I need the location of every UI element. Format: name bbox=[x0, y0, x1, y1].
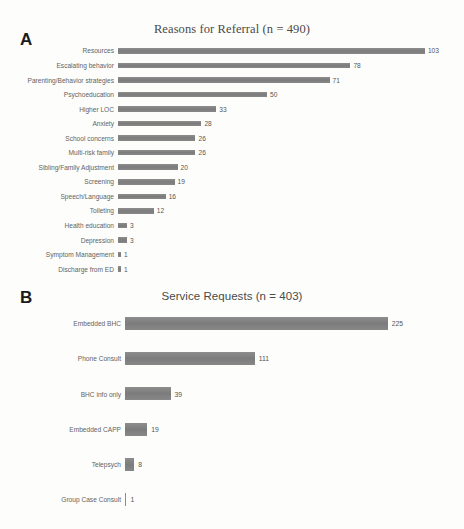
value-label: 71 bbox=[333, 76, 340, 85]
value-label: 33 bbox=[219, 105, 226, 114]
bar bbox=[118, 208, 154, 214]
panel-b: B Service Requests (n = 403) Embedded BH… bbox=[0, 285, 464, 529]
bar bbox=[118, 194, 166, 200]
category-label: Symptom Management bbox=[46, 250, 114, 259]
category-label: Phone Consult bbox=[78, 354, 121, 363]
category-label: Embedded CAPP bbox=[69, 425, 121, 434]
bar bbox=[118, 106, 216, 112]
bar bbox=[118, 252, 121, 258]
bar bbox=[125, 387, 171, 400]
category-label: Speech/Language bbox=[60, 192, 114, 201]
value-label: 3 bbox=[130, 221, 134, 230]
category-label: Psychoeducation bbox=[64, 90, 114, 99]
bar bbox=[125, 423, 147, 436]
category-label: Screening bbox=[84, 177, 114, 186]
bar bbox=[125, 458, 134, 471]
category-label: Resources bbox=[82, 46, 114, 55]
bar bbox=[118, 48, 425, 54]
bar bbox=[118, 266, 121, 272]
value-label: 50 bbox=[270, 90, 277, 99]
category-label: Discharge from ED bbox=[58, 265, 114, 274]
panel-a-title: Reasons for Referral (n = 490) bbox=[0, 22, 464, 37]
value-label: 28 bbox=[204, 119, 211, 128]
category-label: Health education bbox=[65, 221, 115, 230]
category-label: Toileting bbox=[90, 206, 114, 215]
category-label: Anxiety bbox=[92, 119, 114, 128]
category-label: Group Case Consult bbox=[61, 495, 121, 504]
value-label: 3 bbox=[130, 236, 134, 245]
value-label: 39 bbox=[175, 390, 183, 399]
bar bbox=[118, 121, 201, 127]
category-label: Sibling/Family Adjustment bbox=[39, 163, 115, 172]
figure-root: A Reasons for Referral (n = 490) Resourc… bbox=[0, 0, 464, 529]
value-label: 78 bbox=[353, 61, 360, 70]
category-label: School concerns bbox=[65, 134, 114, 143]
bar bbox=[125, 352, 255, 365]
value-label: 103 bbox=[428, 46, 439, 55]
value-label: 20 bbox=[181, 163, 188, 172]
value-label: 1 bbox=[124, 265, 128, 274]
category-label: Depression bbox=[81, 236, 114, 245]
category-label: Telepsych bbox=[92, 460, 121, 469]
value-label: 8 bbox=[138, 460, 142, 469]
bar bbox=[125, 317, 388, 330]
value-label: 16 bbox=[169, 192, 176, 201]
bar bbox=[118, 179, 175, 185]
value-label: 111 bbox=[259, 354, 269, 363]
category-label: BHC info only bbox=[81, 390, 121, 399]
panel-b-title: Service Requests (n = 403) bbox=[0, 290, 464, 302]
category-label: Escalating behavior bbox=[56, 61, 114, 70]
bar bbox=[118, 150, 195, 156]
value-label: 1 bbox=[124, 250, 128, 259]
bar bbox=[118, 92, 267, 98]
bar bbox=[118, 77, 330, 83]
bar bbox=[125, 493, 126, 506]
bar bbox=[118, 237, 127, 243]
value-label: 1 bbox=[130, 495, 134, 504]
category-label: Embedded BHC bbox=[73, 319, 121, 328]
category-label: Higher LOC bbox=[79, 105, 114, 114]
value-label: 26 bbox=[198, 134, 205, 143]
value-label: 225 bbox=[392, 319, 403, 328]
value-label: 19 bbox=[178, 177, 185, 186]
bar bbox=[118, 135, 195, 141]
category-label: Parenting/Behavior strategies bbox=[27, 76, 114, 85]
value-label: 19 bbox=[151, 425, 159, 434]
bar bbox=[118, 164, 178, 170]
category-label: Multi-risk family bbox=[69, 148, 114, 157]
value-label: 12 bbox=[157, 206, 164, 215]
panel-a: A Reasons for Referral (n = 490) Resourc… bbox=[0, 0, 464, 285]
bar bbox=[118, 223, 127, 229]
bar bbox=[118, 63, 350, 69]
value-label: 26 bbox=[198, 148, 205, 157]
